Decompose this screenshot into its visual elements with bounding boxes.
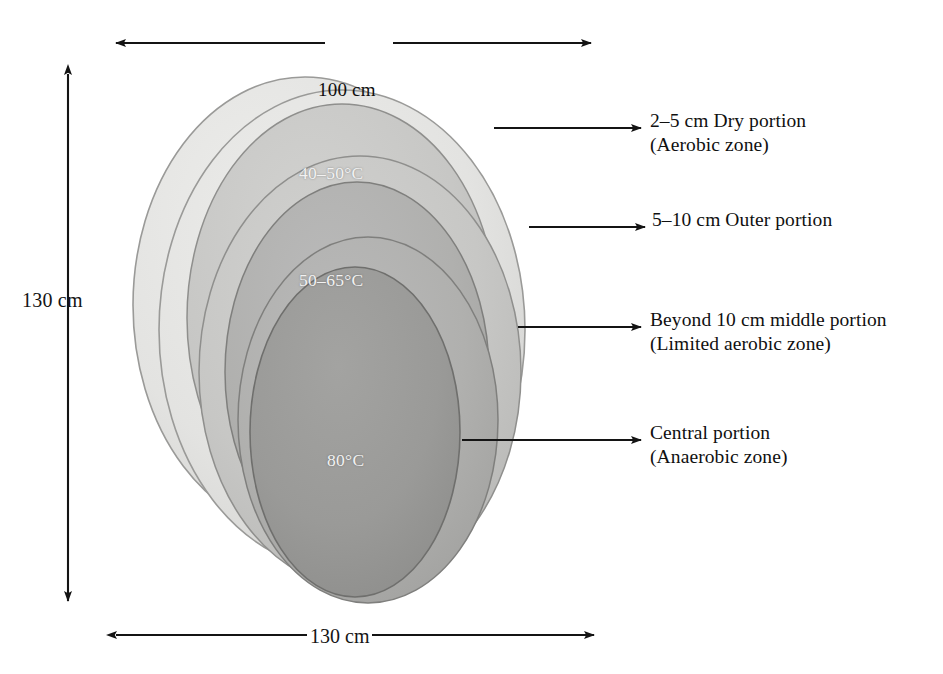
zone-ellipse-stack [133, 77, 525, 603]
diagram-canvas: 130 cm 130 cm 100 cm 40–50°C 50–65°C 80°… [0, 0, 943, 674]
callout-dry-portion: 2–5 cm Dry portion (Aerobic zone) [650, 109, 806, 157]
callout-middle-portion-line2: (Limited aerobic zone) [650, 332, 887, 356]
zone-shape-central-portion [238, 237, 498, 603]
width-dimension-label: 130 cm [307, 624, 372, 648]
callout-middle-portion-line1: Beyond 10 cm middle portion [650, 309, 887, 330]
callout-central-portion-line2: (Anaerobic zone) [650, 445, 787, 469]
callout-dry-portion-line1: 2–5 cm Dry portion [650, 110, 806, 131]
callout-central-portion-line1: Central portion [650, 422, 770, 443]
height-dimension-label: 130 cm [22, 288, 83, 312]
callout-central-portion: Central portion (Anaerobic zone) [650, 421, 787, 469]
top-width-label: 100 cm [318, 78, 376, 101]
callout-middle-portion: Beyond 10 cm middle portion (Limited aer… [650, 308, 887, 356]
callout-outer-portion-line1: 5–10 cm Outer portion [652, 209, 832, 230]
callout-outer-portion: 5–10 cm Outer portion [652, 208, 832, 232]
callout-dry-portion-line2: (Aerobic zone) [650, 133, 806, 157]
zone-temp-label-outer-portion: 40–50°C [299, 163, 364, 184]
zone-temp-label-middle-portion: 50–65°C [299, 270, 364, 291]
zone-temp-label-central-portion: 80°C [327, 450, 364, 471]
